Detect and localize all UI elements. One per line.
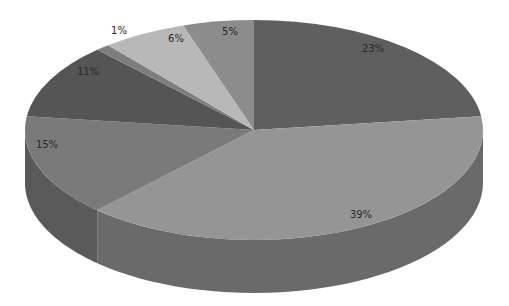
- slice-label-4: 1%: [111, 25, 127, 36]
- slice-label-3: 11%: [77, 66, 99, 77]
- pie-slices: [25, 20, 483, 240]
- slice-label-5: 6%: [168, 33, 184, 44]
- slice-label-2: 15%: [36, 139, 58, 150]
- slice-label-0: 23%: [362, 43, 384, 54]
- slice-label-6: 5%: [222, 26, 238, 37]
- pie-chart: 23% 39% 15% 11% 1% 6% 5%: [0, 0, 509, 306]
- slice-0: [254, 20, 481, 130]
- slice-label-1: 39%: [350, 209, 372, 220]
